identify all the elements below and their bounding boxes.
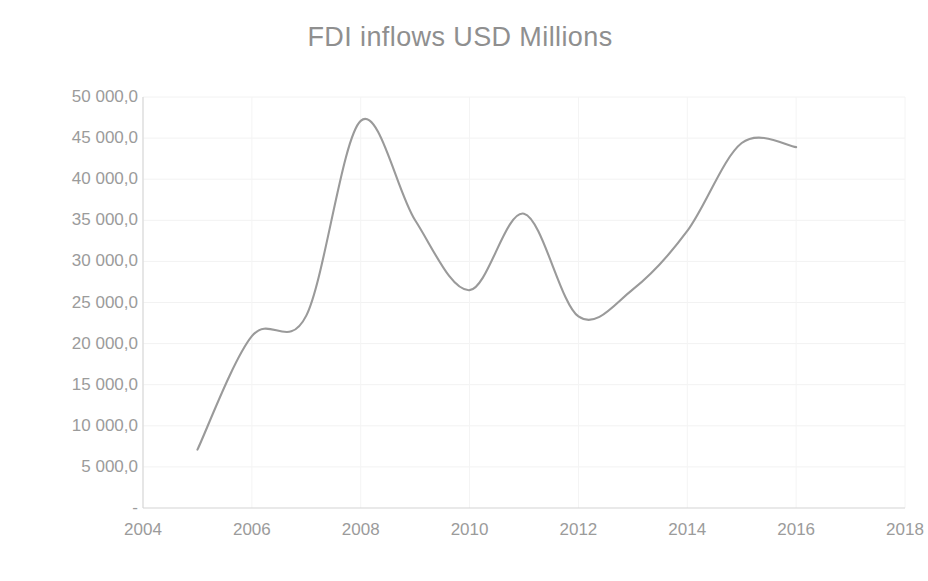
grid-lines	[143, 97, 905, 508]
data-series-line	[197, 119, 796, 450]
